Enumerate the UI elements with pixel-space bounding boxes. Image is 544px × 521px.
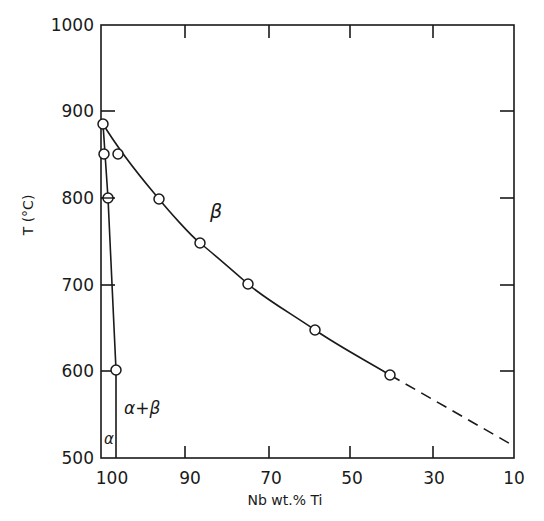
marker <box>154 194 164 204</box>
phase-label-alpha: α <box>104 430 114 448</box>
x-tick-labels: 100 90 70 50 30 10 <box>96 468 525 488</box>
y-ticks-right <box>500 111 514 371</box>
marker <box>310 325 320 335</box>
marker <box>111 365 121 375</box>
y-tick-800: 800 <box>62 188 94 208</box>
marker <box>243 279 253 289</box>
y-tick-700: 700 <box>62 275 94 295</box>
data-markers <box>98 119 395 380</box>
alpha-boundary-line <box>103 124 116 458</box>
x-ticks-bottom <box>185 446 433 458</box>
x-tick-30: 30 <box>423 468 445 488</box>
marker <box>98 119 108 129</box>
beta-transus-line <box>103 124 390 375</box>
x-tick-50: 50 <box>341 468 363 488</box>
plot-frame <box>101 25 514 458</box>
marker <box>385 370 395 380</box>
x-ticks-top <box>185 25 433 38</box>
phase-diagram: 1000 900 800 700 600 500 100 90 70 50 30… <box>0 0 544 521</box>
y-tick-labels: 1000 900 800 700 600 500 <box>51 15 94 468</box>
x-tick-100: 100 <box>96 468 128 488</box>
y-tick-1000: 1000 <box>51 15 94 35</box>
y-tick-600: 600 <box>62 361 94 381</box>
y-tick-500: 500 <box>62 448 94 468</box>
x-tick-10: 10 <box>503 468 525 488</box>
marker <box>195 238 205 248</box>
x-tick-70: 70 <box>260 468 282 488</box>
y-axis-title: T (°C) <box>20 195 36 237</box>
phase-label-beta: β <box>209 200 222 222</box>
marker <box>99 149 109 159</box>
beta-transus-extrapolation <box>390 375 514 446</box>
x-tick-90: 90 <box>179 468 201 488</box>
marker <box>113 149 123 159</box>
y-tick-900: 900 <box>62 101 94 121</box>
phase-label-alpha-beta: α+β <box>124 398 160 418</box>
x-axis-title: Nb wt.% Ti <box>248 492 323 508</box>
